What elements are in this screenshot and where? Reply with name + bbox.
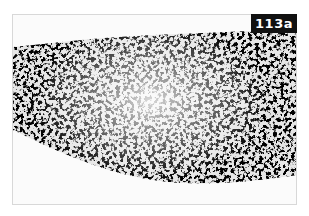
micrograph-frame xyxy=(12,14,297,205)
figure-label: 113a xyxy=(251,14,297,33)
micrograph-image xyxy=(13,15,297,205)
